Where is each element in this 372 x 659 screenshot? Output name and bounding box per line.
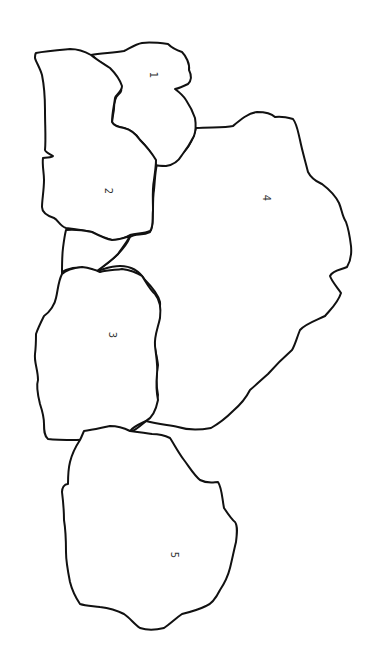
region-label-5: 5 [169,552,179,558]
region-diagram [0,0,372,659]
region-label-1: 1 [148,72,158,78]
region-5 [62,426,237,630]
region-3 [35,267,161,440]
region-label-3: 3 [107,332,117,338]
region-label-2: 2 [103,188,113,194]
region-label-4: 4 [261,195,271,201]
